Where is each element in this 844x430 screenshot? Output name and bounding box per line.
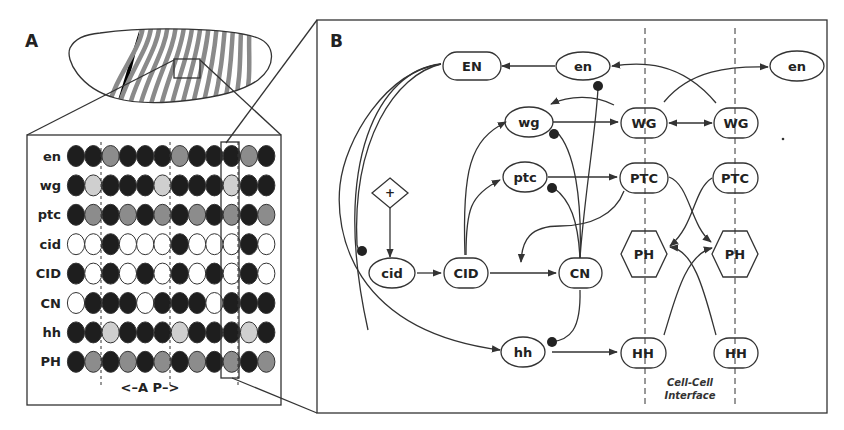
- expression-cell: [137, 263, 154, 284]
- svg-text:PTC: PTC: [721, 171, 749, 186]
- figure-canvas: A enwgptccidCIDCNhhPH <–A P–> B: [0, 0, 844, 430]
- expression-cell: [258, 322, 275, 343]
- node-ptc: ptc: [503, 162, 547, 192]
- expression-cell: [119, 204, 136, 225]
- svg-text:+: +: [385, 186, 395, 200]
- expression-cell: [189, 293, 206, 314]
- interface-label-line2: Interface: [664, 390, 715, 401]
- expression-cell: [67, 175, 84, 196]
- node-HH-2: HH: [714, 338, 758, 368]
- expression-cell: [85, 146, 102, 167]
- expression-cell: [189, 351, 206, 372]
- expression-cell: [119, 146, 136, 167]
- expression-cell: [258, 146, 275, 167]
- svg-text:en: en: [574, 59, 592, 74]
- expression-cell: [240, 234, 257, 255]
- node-HH-1: HH: [621, 338, 666, 368]
- node-WG-2: WG: [714, 108, 758, 138]
- svg-text:WG: WG: [723, 116, 748, 131]
- node-hh: hh: [501, 337, 545, 367]
- svg-text:PH: PH: [725, 247, 745, 262]
- expression-cell: [85, 351, 102, 372]
- expression-cell: [223, 322, 240, 343]
- expression-cell: [119, 322, 136, 343]
- expression-cell: [240, 146, 257, 167]
- expression-cell: [189, 322, 206, 343]
- expression-cell: [154, 204, 171, 225]
- expression-cell: [189, 146, 206, 167]
- interface-label-line1: Cell-Cell: [667, 377, 714, 388]
- svg-text:HH: HH: [725, 346, 747, 361]
- ap-axis-label: <–A P–>: [121, 380, 180, 395]
- expression-cell: [85, 322, 102, 343]
- node-PTC-1: PTC: [620, 163, 668, 193]
- expression-cell: [102, 351, 119, 372]
- expression-cell: [137, 351, 154, 372]
- expression-cell: [102, 204, 119, 225]
- expression-cell: [258, 351, 275, 372]
- node-CN: CN: [559, 258, 602, 288]
- node-en-1: en: [556, 52, 610, 80]
- expression-cell: [189, 234, 206, 255]
- expression-cell: [102, 234, 119, 255]
- expression-cell: [67, 146, 84, 167]
- regulatory-edges: [339, 64, 768, 352]
- expression-cell: [137, 293, 154, 314]
- expression-cell: [154, 263, 171, 284]
- expression-cell: [258, 175, 275, 196]
- expression-cell: [258, 234, 275, 255]
- expression-cell: [137, 146, 154, 167]
- expression-cell: [119, 351, 136, 372]
- gene-row-label: ptc: [38, 207, 61, 222]
- svg-text:WG: WG: [631, 116, 656, 131]
- svg-text:HH: HH: [632, 346, 654, 361]
- expression-cell: [85, 204, 102, 225]
- svg-text:PH: PH: [634, 247, 654, 262]
- node-cid: cid: [369, 258, 415, 288]
- gene-row-label: en: [43, 149, 61, 164]
- expression-cell: [67, 234, 84, 255]
- node-plus: +: [372, 178, 408, 208]
- expression-cell: [67, 263, 84, 284]
- node-WG-1: WG: [621, 108, 667, 138]
- expression-cell: [137, 234, 154, 255]
- expression-cell: [102, 175, 119, 196]
- expression-cell: [154, 322, 171, 343]
- gene-row-label: cid: [40, 237, 61, 252]
- expression-cell: [137, 175, 154, 196]
- panel-a-letter: A: [25, 31, 39, 51]
- expression-cell: [85, 263, 102, 284]
- expression-cell: [240, 322, 257, 343]
- svg-text:ptc: ptc: [513, 170, 536, 185]
- expression-cell: [102, 146, 119, 167]
- stray-dot: [782, 138, 785, 141]
- expression-cell: [171, 175, 188, 196]
- embryo-zoom-box: [174, 59, 200, 78]
- expression-cell: [154, 146, 171, 167]
- expression-cell: [240, 175, 257, 196]
- expression-cell: [154, 293, 171, 314]
- gene-row-label: wg: [40, 178, 61, 193]
- gene-row-label: CID: [36, 266, 61, 281]
- expression-cell: [85, 175, 102, 196]
- node-PH-1: PH: [621, 231, 667, 277]
- svg-text:EN: EN: [462, 59, 482, 74]
- svg-text:CID: CID: [453, 266, 478, 281]
- node-EN: EN: [443, 52, 501, 80]
- svg-text:CN: CN: [570, 266, 590, 281]
- expression-cell: [119, 234, 136, 255]
- expression-cell: [189, 263, 206, 284]
- expression-cell: [240, 263, 257, 284]
- node-en-2: en: [770, 51, 824, 81]
- svg-text:hh: hh: [514, 345, 533, 360]
- gene-row-label: CN: [41, 296, 61, 311]
- expression-cell: [189, 175, 206, 196]
- expression-cell: [171, 322, 188, 343]
- expression-cell: [137, 322, 154, 343]
- expression-cell: [119, 175, 136, 196]
- expression-cell: [171, 234, 188, 255]
- expression-cell: [137, 204, 154, 225]
- expression-cell: [119, 293, 136, 314]
- expression-cell: [67, 322, 84, 343]
- expression-cell: [240, 293, 257, 314]
